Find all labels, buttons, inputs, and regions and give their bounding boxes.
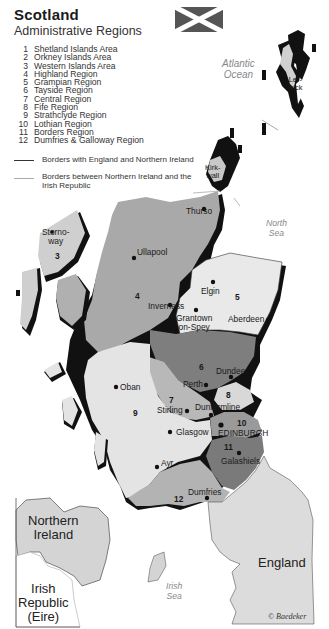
dark-line-icon	[14, 160, 34, 161]
city-label-ullapool: Ullapool	[137, 248, 167, 257]
city-label-perth: Perth	[183, 380, 203, 389]
region-number-8: 8	[226, 390, 231, 400]
sea-label-irish: IrishSea	[166, 582, 182, 601]
border-key-ni-republic: Borders between Northern Ireland and the…	[14, 172, 214, 190]
city-label-edinburgh: EDINBURGH	[218, 429, 268, 438]
city-label-kirkwall: Kirk-wall	[205, 164, 220, 180]
copyright-notice: © Baedeker	[268, 612, 306, 621]
region-number-6: 6	[199, 362, 204, 372]
country-label-england: England	[258, 556, 306, 570]
sea-label-north: NorthSea	[266, 219, 287, 238]
city-label-glasgow: Glasgow	[176, 428, 209, 437]
city-label-lerwick: Ler-wick	[288, 76, 303, 92]
region-number-5: 5	[235, 292, 240, 302]
region-number-3: 3	[55, 251, 60, 261]
country-label-irish-republic: IrishRepublic(Eire)	[18, 582, 69, 624]
city-label-stirling: Stirling	[157, 406, 183, 415]
isle-of-man	[148, 552, 166, 582]
city-label-ayr: Ayr	[161, 459, 173, 468]
region-number-12: 12	[174, 494, 183, 504]
city-label-stornoway: Storno-way	[42, 228, 69, 246]
region-number-10: 10	[237, 418, 246, 428]
region-number-7: 7	[169, 395, 174, 405]
city-label-grantown: Grantownon-Spey	[176, 314, 212, 332]
map-title: Scotland	[14, 6, 79, 23]
light-line-icon	[14, 178, 34, 179]
city-label-dumfries: Dumfries	[188, 488, 222, 497]
city-label-dundee: Dundee	[216, 367, 245, 376]
sea-label-atlantic: AtlanticOcean	[222, 58, 255, 80]
map-subtitle: Administrative Regions	[14, 24, 142, 38]
region-number-11: 11	[224, 442, 233, 452]
legend-item: 12Dumfries & Galloway Region	[14, 136, 144, 144]
city-label-aberdeen: Aberdeen	[228, 315, 264, 324]
city-label-thurso: Thurso	[186, 207, 212, 216]
border-key-england-ni: Borders with England and Northern Irelan…	[14, 155, 194, 164]
country-label-northern-ireland: NorthernIreland	[28, 514, 79, 542]
region-legend: 1Shetland Islands Area 2Orkney Islands A…	[14, 45, 144, 145]
city-label-inverness: Inverness	[148, 302, 184, 311]
region-number-4: 4	[135, 291, 140, 301]
saltire-flag-icon	[175, 7, 223, 32]
city-label-oban: Oban	[120, 383, 141, 392]
city-label-galashiels: Galashiels	[221, 457, 260, 466]
city-label-dunfermline: Dunfermline	[195, 403, 240, 412]
city-label-elgin: Elgin	[201, 287, 220, 296]
region-number-9: 9	[133, 408, 138, 418]
